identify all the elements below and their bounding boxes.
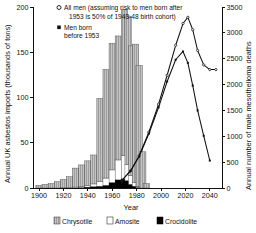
legend-allmen-line1: All men (assuming risk to men born after [64,4,183,12]
y-tick-label-right: 3500 [227,3,243,12]
bar-segment-chrysotile [42,184,48,188]
data-point-marker [197,109,199,111]
data-point-marker [158,106,160,108]
data-point-marker [175,59,177,61]
amosite-swatch-icon [107,217,113,224]
x-tick-label: 2020 [177,191,193,200]
y-tick-label-left: 50 [21,138,29,147]
bar-segment-chrysotile [60,179,66,187]
data-point-marker [203,135,205,137]
legend-menborn-line2: before 1953 [64,32,100,39]
data-point-marker [182,50,184,52]
data-point-marker [187,16,189,18]
bar-segment-chrysotile [85,161,91,185]
x-tick-label: 1920 [55,191,71,200]
x-tick-label: 1980 [129,191,145,200]
bar-segment-chrysotile [66,177,72,188]
bar-segment-amosite [109,170,115,183]
bar-segment-chrysotile [91,155,97,184]
bar-segment-chrysotile [143,183,149,188]
x-tick-label: 1960 [104,191,120,200]
bar-segment-chrysotile [103,69,109,178]
data-point-marker [175,44,177,46]
bar-segment-amosite [85,185,91,187]
y-tick-label-right: 1000 [227,132,243,141]
data-point-marker [215,68,217,70]
y-tick-label-left: 0 [25,184,29,193]
y-tick-label-left: 200 [17,3,29,12]
data-point-marker [166,80,168,82]
legend-crocidolite-label: Crocidolite [165,218,197,225]
data-point-marker [130,170,132,172]
data-point-marker [148,133,150,135]
y-tick-label-left: 150 [17,48,29,57]
bar-segment-chrysotile [115,36,121,160]
data-point-marker [196,49,198,51]
y-tick-label-right: 0 [227,184,231,193]
chart-figure: 0501001502000500100015002000250030003500… [0,0,256,233]
y-tick-label-left: 100 [17,93,29,102]
data-point-marker [138,155,140,157]
data-point-marker [121,179,123,181]
bar-segment-chrysotile [140,152,146,188]
bar-segment-amosite [97,182,103,187]
x-tick-label: 1900 [31,191,47,200]
legend-menborn-line1: Men born [64,24,92,31]
legend-top: All men (assuming risk to men born after… [57,4,183,39]
bar-segment-chrysotile [72,168,78,187]
x-tick-label: 1940 [80,191,96,200]
bar-segment-amosite [103,178,109,185]
bar-segment-amosite [91,184,97,187]
data-point-marker [209,68,211,70]
bar-segment-amosite [115,160,121,180]
data-point-marker [166,74,168,76]
y-tick-label-right: 3000 [227,28,243,37]
mesothelioma-asbestos-chart: 0501001502000500100015002000250030003500… [0,0,256,233]
y-tick-label-right: 2000 [227,80,243,89]
y-axis-right-title: Annual number of male mesothelioma death… [244,41,253,190]
bar-segment-chrysotile [109,43,115,170]
bar-segment-crocidolite [115,180,121,188]
filled-square-icon [57,26,61,30]
y-axis-left-title: Annual UK asbestos imports (thousands of… [3,24,12,183]
bar-segment-chrysotile [79,165,85,187]
x-tick-label: 2040 [202,191,218,200]
data-point-marker [182,22,184,24]
y-tick-label-right: 500 [227,158,239,167]
crocidolite-swatch-icon [157,217,163,224]
legend-amosite-label: Amosite [115,218,140,225]
bar-segment-chrysotile [97,98,103,181]
chrysotile-swatch-icon [54,217,60,224]
data-point-marker [187,62,189,64]
data-point-marker [192,29,194,31]
bar-segment-chrysotile [48,183,54,188]
x-axis-title: Year [124,203,139,212]
legend-allmen-line2: 1953 is 50% of 1943-48 birth cohort) [69,13,176,21]
x-tick-label: 2000 [153,191,169,200]
bar-segment-crocidolite [109,183,115,188]
y-tick-label-right: 1500 [227,106,243,115]
legend-bottom: Chrysotile Amosite Crocidolite [54,217,197,226]
data-point-marker [209,160,211,162]
data-point-marker [192,85,194,87]
y-tick-label-right: 2500 [227,54,243,63]
bar-segment-chrysotile [54,182,60,188]
legend-chrysotile-label: Chrysotile [62,218,92,226]
data-point-marker [203,64,205,66]
open-circle-icon [57,6,61,10]
